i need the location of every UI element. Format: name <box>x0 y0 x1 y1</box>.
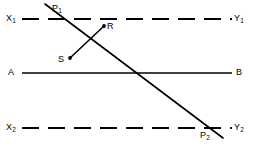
label-p2: P2 <box>200 130 210 140</box>
segment-r-s <box>70 26 104 58</box>
point-s-dot <box>68 56 72 60</box>
label-r: R <box>107 21 114 31</box>
label-x1: X1 <box>6 13 16 23</box>
label-s: S <box>58 54 64 64</box>
geometry-diagram: X1 Y1 A B X2 Y2 P1 R S P2 <box>0 0 257 151</box>
label-b: B <box>236 67 242 77</box>
label-x2: X2 <box>6 122 16 132</box>
label-y2: Y2 <box>234 122 244 132</box>
point-r-dot <box>102 24 106 28</box>
label-p1: P1 <box>52 3 62 13</box>
label-a: A <box>8 67 14 77</box>
label-y1: Y1 <box>234 13 244 23</box>
line-p1-p2-transversal <box>45 4 223 138</box>
diagram-canvas <box>0 0 257 151</box>
